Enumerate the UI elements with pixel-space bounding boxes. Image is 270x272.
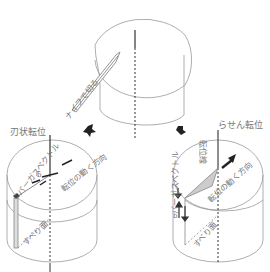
motion-arrow-icon [222, 154, 236, 168]
edge-dislocation-title: 刃状転位 [10, 125, 46, 138]
right-burgers-label: バーガスベクトル [169, 151, 180, 214]
transition-arrow-left-icon [83, 124, 96, 137]
right-burgers-symbol: b [173, 212, 177, 220]
screw-dislocation-title: らせん転位 [218, 118, 263, 131]
transition-arrow-right-icon [176, 126, 186, 135]
top-cylinder [95, 19, 192, 140]
right-dislocation-line-label: 転位線 [198, 140, 209, 164]
left-burgers-symbol: b [37, 171, 41, 179]
